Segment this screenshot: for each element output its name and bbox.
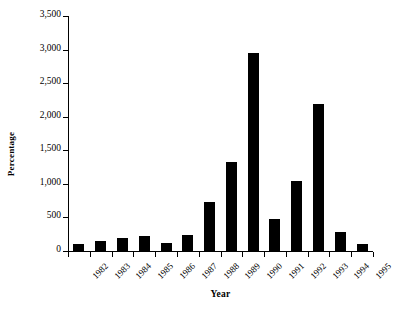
x-axis-tick-label: 1993	[330, 261, 350, 281]
y-axis-title-text: Percentage	[6, 132, 16, 176]
bar	[357, 244, 368, 251]
y-axis-tick-mark	[63, 150, 68, 151]
y-axis-tick-mark	[63, 217, 68, 218]
x-axis-tick-mark	[351, 252, 352, 257]
y-axis-tick-label: 1,500	[40, 143, 61, 153]
bar	[291, 181, 302, 251]
x-axis-tick-mark	[155, 252, 156, 257]
x-axis-tick-label: 1982	[90, 261, 110, 281]
x-axis-tick-label: 1990	[264, 261, 284, 281]
x-axis-tick-label: 1985	[156, 261, 176, 281]
y-axis-tick-label: 500	[47, 210, 61, 220]
y-axis-tick-label: 3,500	[40, 9, 61, 19]
y-axis-tick-mark	[63, 83, 68, 84]
bar	[95, 241, 106, 251]
x-axis-tick-label: 1991	[286, 261, 306, 281]
y-axis-line	[68, 16, 69, 252]
x-axis-tick-label: 1986	[177, 261, 197, 281]
x-axis-tick-label: 1995	[373, 261, 393, 281]
y-axis-tick-label: 2,500	[40, 76, 61, 86]
y-axis-tick-label: 3,000	[40, 43, 61, 53]
x-axis-tick-label: 1988	[221, 261, 241, 281]
x-axis-title: Year	[68, 289, 373, 299]
y-axis-tick-mark	[63, 184, 68, 185]
x-axis-tick-mark	[308, 252, 309, 257]
x-axis-tick-label: 1994	[352, 261, 372, 281]
x-axis-tick-mark	[242, 252, 243, 257]
y-axis-tick-mark	[63, 117, 68, 118]
x-axis-tick-mark	[90, 252, 91, 257]
x-axis-tick-mark	[286, 252, 287, 257]
bar	[204, 202, 215, 251]
y-axis-tick-mark	[63, 50, 68, 51]
y-axis-tick-label: 2,000	[40, 110, 61, 120]
x-axis-tick-mark	[199, 252, 200, 257]
bar	[182, 235, 193, 251]
bar	[248, 53, 259, 251]
bar	[313, 104, 324, 251]
bar	[139, 236, 150, 251]
bar	[73, 244, 84, 251]
plot-area: 05001,0001,5002,0002,5003,0003,500 19821…	[68, 16, 373, 251]
bar	[161, 243, 172, 251]
x-axis-tick-mark	[68, 252, 69, 257]
y-axis-tick-mark	[63, 16, 68, 17]
x-axis-tick-mark	[177, 252, 178, 257]
y-axis-tick-label: 0	[56, 244, 61, 254]
x-axis-tick-label: 1987	[199, 261, 219, 281]
x-axis-tick-label: 1992	[308, 261, 328, 281]
y-axis-tick-label: 1,000	[40, 177, 61, 187]
x-axis-tick-mark	[221, 252, 222, 257]
x-axis-tick-label: 1983	[112, 261, 132, 281]
bar	[226, 162, 237, 251]
bar	[117, 238, 128, 251]
x-axis-tick-mark	[112, 252, 113, 257]
x-axis-tick-mark	[133, 252, 134, 257]
x-axis-tick-mark	[373, 252, 374, 257]
bar	[335, 232, 346, 251]
y-axis-title: Percentage	[2, 104, 20, 204]
bar	[269, 219, 280, 251]
x-axis-tick-label: 1984	[134, 261, 154, 281]
x-axis-tick-mark	[264, 252, 265, 257]
x-axis-tick-label: 1989	[243, 261, 263, 281]
x-axis-tick-mark	[329, 252, 330, 257]
